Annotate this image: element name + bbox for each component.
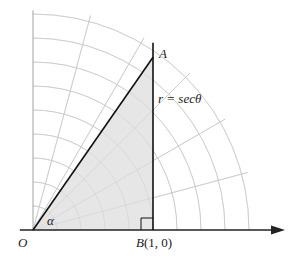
polar-diagram: O α A B(1, 0) r = secθ [0, 0, 300, 264]
label-origin: O [18, 235, 28, 250]
label-point-b-coords: (1, 0) [144, 235, 172, 250]
label-point-b-name: B [136, 235, 144, 250]
x-axis-arrowhead [271, 226, 285, 235]
label-point-a: A [158, 46, 167, 61]
label-angle-alpha: α [47, 213, 55, 228]
label-curve-equation: r = secθ [158, 91, 202, 106]
label-point-b: B(1, 0) [136, 235, 172, 250]
